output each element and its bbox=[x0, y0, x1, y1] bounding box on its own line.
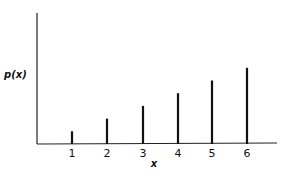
stem-series bbox=[72, 68, 247, 144]
x-axis-label: x bbox=[150, 158, 158, 169]
x-tick-label: 1 bbox=[69, 147, 76, 160]
pmf-chart: p(x) 123456 x bbox=[0, 0, 290, 177]
y-axis-label: p(x) bbox=[3, 69, 27, 80]
x-tick-label: 2 bbox=[104, 147, 111, 160]
x-tick-label: 3 bbox=[140, 147, 147, 160]
x-tick-label: 5 bbox=[209, 147, 216, 160]
x-tick-label: 6 bbox=[244, 147, 251, 160]
x-tick-label: 4 bbox=[175, 147, 182, 160]
x-tick-labels: 123456 bbox=[69, 147, 251, 160]
